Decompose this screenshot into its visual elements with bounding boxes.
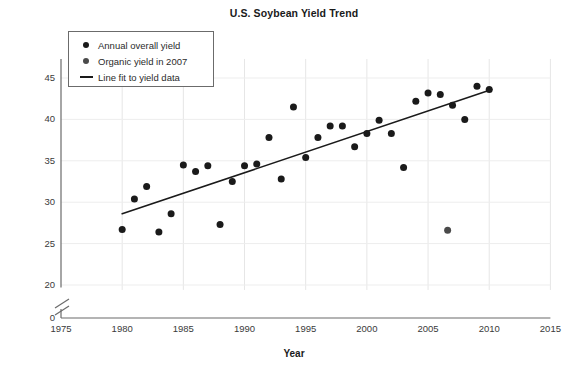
data-point-annual [437, 91, 444, 98]
data-point-annual [131, 195, 138, 202]
chart-container: U.S. Soybean Yield Trend Bushels per acr… [0, 0, 588, 372]
x-axis-label: Year [0, 348, 588, 359]
legend-item[interactable]: Organic yield in 2007 [77, 53, 187, 69]
legend-dot-icon [77, 58, 95, 64]
data-point-annual [217, 221, 224, 228]
data-point-annual [241, 162, 248, 169]
data-point-annual [143, 183, 150, 190]
data-point-annual [155, 229, 162, 236]
y-tick-label: 0 [31, 312, 55, 323]
axis-lines [55, 59, 550, 318]
legend-label: Line fit to yield data [98, 72, 180, 83]
data-point-annual [351, 143, 358, 150]
data-point-annual [278, 176, 285, 183]
data-point-annual [425, 89, 432, 96]
data-point-annual [192, 168, 199, 175]
data-point-annual [204, 162, 211, 169]
dot-icon [83, 58, 89, 64]
data-point-annual [461, 116, 468, 123]
legend-dot-icon [77, 42, 95, 48]
y-tick-label: 30 [31, 196, 55, 207]
fit-line [122, 90, 491, 214]
legend-item[interactable]: Line fit to yield data [77, 69, 180, 85]
y-tick-label: 20 [31, 279, 55, 290]
data-point-annual [119, 226, 126, 233]
line-icon [80, 76, 93, 78]
dot-icon [83, 42, 89, 48]
legend: Annual overall yieldOrganic yield in 200… [68, 31, 214, 87]
data-point-annual [229, 178, 236, 185]
data-point-annual [168, 210, 175, 217]
data-point-annual [314, 134, 321, 141]
data-point-annual [290, 103, 297, 110]
legend-line-icon [77, 76, 95, 78]
data-point-annual [473, 83, 480, 90]
data-point-annual [363, 130, 370, 137]
data-point-annual [265, 134, 272, 141]
y-tick-label: 45 [31, 72, 55, 83]
y-tick-label: 35 [31, 155, 55, 166]
data-point-annual [180, 161, 187, 168]
data-point-annual [327, 123, 334, 130]
data-point-annual [449, 102, 456, 109]
chart-title: U.S. Soybean Yield Trend [0, 7, 588, 19]
data-point-annual [412, 98, 419, 105]
gridlines [61, 59, 550, 290]
data-point-annual [400, 164, 407, 171]
data-point-annual [253, 161, 260, 168]
fit-line-segment [122, 90, 491, 214]
y-tick-label: 25 [31, 238, 55, 249]
legend-label: Annual overall yield [98, 40, 180, 51]
data-point-organic [444, 227, 451, 234]
y-tick-label: 40 [31, 113, 55, 124]
data-point-annual [486, 86, 493, 93]
data-point-annual [302, 154, 309, 161]
legend-item[interactable]: Annual overall yield [77, 37, 180, 53]
data-point-annual [339, 123, 346, 130]
data-point-annual [388, 130, 395, 137]
legend-label: Organic yield in 2007 [98, 56, 187, 67]
data-point-annual [376, 117, 383, 124]
